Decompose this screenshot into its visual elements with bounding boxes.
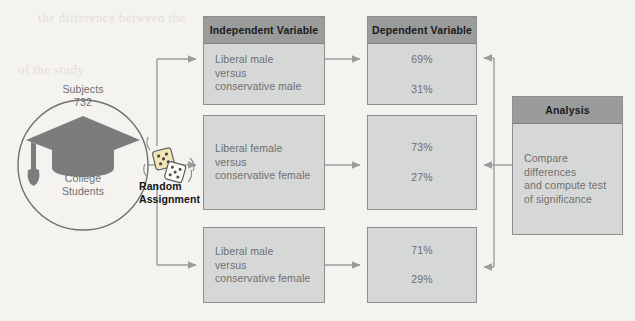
independent-variable-box-row-2: Liberal female versus conservative femal… [203,115,325,210]
college-line-2: Students [43,185,123,198]
iv-row-1-line-1: Liberal male [215,53,313,67]
iv-row-1-line-2: versus [215,67,313,81]
dice-icon [144,137,194,183]
analysis-line-3: of significance [524,193,611,207]
dependent-variable-header: Dependent Variable [368,17,476,44]
dependent-variable-body-row-2: 73% 27% [368,116,476,209]
subjects-caption: Subjects [43,83,123,96]
dv-row-2-percent-1: 73% [411,141,432,155]
dependent-variable-box-row-1: Dependent Variable 69% 31% [367,16,477,105]
subjects-count: 732 [43,96,123,109]
random-assignment-line-2: Assignment [139,193,211,206]
dependent-variable-body-row-3: 71% 29% [368,228,476,302]
college-students-label: College Students [43,172,123,198]
dependent-variable-box-row-2: 73% 27% [367,115,477,210]
diagram-canvas: the difference between the of the study [0,0,635,321]
iv-row-3-line-3: conservative female [215,272,313,286]
analysis-body: Compare differences and compute test of … [513,124,622,215]
independent-variable-body-row-2: Liberal female versus conservative femal… [204,116,324,192]
independent-variable-body-row-3: Liberal male versus conservative female [204,228,324,295]
iv-row-3-line-2: versus [215,259,313,273]
dependent-variable-box-row-3: 71% 29% [367,227,477,303]
analysis-box: Analysis Compare differences and compute… [512,96,623,235]
independent-variable-body-row-1: Liberal male versus conservative male [204,44,324,103]
iv-row-2-line-1: Liberal female [215,142,313,156]
dv-row-1-percent-2: 31% [411,83,432,97]
independent-variable-box-row-3: Liberal male versus conservative female [203,227,325,303]
random-assignment-line-1: Random [139,180,211,193]
analysis-line-1: Compare differences [524,152,611,179]
dv-row-2-percent-2: 27% [411,171,432,185]
independent-variable-box-row-1: Independent Variable Liberal male versus… [203,16,325,105]
college-line-1: College [43,172,123,185]
iv-row-1-line-3: conservative male [215,80,313,94]
analysis-header: Analysis [513,97,622,124]
dv-row-1-percent-1: 69% [411,53,432,67]
dependent-variable-body-row-1: 69% 31% [368,44,476,105]
iv-row-2-line-2: versus [215,156,313,170]
dv-row-3-percent-2: 29% [411,273,432,287]
iv-row-3-line-1: Liberal male [215,245,313,259]
analysis-line-2: and compute test [524,179,611,193]
random-assignment-label: Random Assignment [139,180,211,205]
iv-row-2-line-3: conservative female [215,169,313,183]
subjects-label: Subjects 732 [43,83,123,109]
independent-variable-header: Independent Variable [204,17,324,44]
dv-row-3-percent-1: 71% [411,244,432,258]
